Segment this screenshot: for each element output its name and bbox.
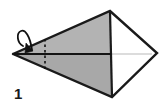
- origami-diagram: [0, 0, 166, 104]
- step-number-label: 1: [14, 86, 22, 102]
- origami-figure-root: 1: [0, 0, 166, 104]
